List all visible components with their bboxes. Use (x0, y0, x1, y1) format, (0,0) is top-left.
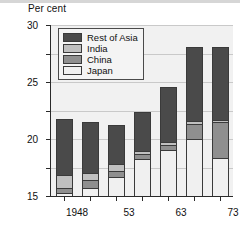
bar-segment-china (56, 188, 73, 193)
y-axis-tick-label: 30 (27, 20, 38, 31)
bar-segment-japan (134, 159, 151, 196)
bar-segment-japan (186, 139, 203, 196)
legend-item: Rest of Asia (63, 32, 138, 43)
legend-swatch-icon (63, 66, 82, 75)
y-axis-tick: 30 (46, 25, 51, 26)
x-axis-tick: 83 (168, 196, 169, 201)
bar-segment-china (160, 145, 177, 151)
legend: Rest of AsiaIndiaChinaJapan (58, 28, 144, 80)
x-axis-tick-label: 63 (175, 207, 186, 218)
y-axis-tick: 15 (46, 111, 51, 112)
x-axis-tick: 1948 (64, 196, 65, 201)
x-axis-tick: 53 (90, 196, 91, 201)
bar-segment-india (160, 142, 177, 145)
legend-swatch-icon (63, 55, 82, 64)
bar-segment-china (186, 124, 203, 139)
x-axis-tick-label: 1948 (66, 207, 88, 218)
y-axis-tick: 0 (46, 196, 51, 197)
bar-segment-india (56, 175, 73, 188)
legend-item-label: Rest of Asia (87, 32, 138, 43)
legend-swatch-icon (63, 33, 82, 42)
bar-segment-rest-of-asia (212, 47, 229, 120)
bar-segment-rest-of-asia (134, 112, 151, 151)
bar-segment-india (108, 164, 125, 171)
bar-segment-india (134, 151, 151, 154)
legend-item: Japan (63, 65, 138, 76)
bar-segment-rest-of-asia (186, 47, 203, 121)
bar-segment-india (82, 173, 99, 180)
bar-segment-china (108, 171, 125, 177)
y-axis-tick: 20 (46, 82, 51, 83)
legend-item-label: India (87, 43, 108, 54)
bar-segment-china (134, 154, 151, 159)
y-axis-tick-label: 20 (27, 134, 38, 145)
bar-segment-rest-of-asia (108, 125, 125, 164)
bar-segment-japan (56, 193, 73, 196)
bar-segment-japan (108, 177, 125, 196)
bar-segment-india (186, 121, 203, 124)
bar-83 (160, 25, 177, 196)
y-axis-tick: 25 (46, 54, 51, 55)
x-axis-tick: 63 (116, 196, 117, 201)
bar-segment-japan (82, 188, 99, 196)
y-axis-tick-label: 15 (27, 191, 38, 202)
bar-segment-china (212, 122, 229, 158)
x-axis-tick: 93 (194, 196, 195, 201)
bar-segment-japan (160, 150, 177, 196)
y-axis-tick: 5 (46, 168, 51, 169)
legend-item-label: China (87, 54, 112, 65)
bar-2003 (212, 25, 229, 196)
x-axis-tick-label: 53 (123, 207, 134, 218)
x-axis-tick: 2003 (220, 196, 221, 201)
legend-item: India (63, 43, 138, 54)
bar-segment-rest-of-asia (56, 119, 73, 175)
figure: Per cent 051015202530194853637383932003 … (0, 0, 240, 229)
y-axis-tick-label: 25 (27, 77, 38, 88)
bar-93 (186, 25, 203, 196)
y-axis-title: Per cent (28, 3, 66, 14)
bar-segment-rest-of-asia (160, 87, 177, 142)
legend-swatch-icon (63, 44, 82, 53)
x-axis-tick: 73 (142, 196, 143, 201)
bar-segment-rest-of-asia (82, 122, 99, 173)
legend-item: China (63, 54, 138, 65)
bar-segment-india (212, 120, 229, 122)
bar-segment-china (82, 180, 99, 188)
legend-item-label: Japan (87, 65, 113, 76)
y-axis-tick: 10 (46, 139, 51, 140)
bar-segment-japan (212, 158, 229, 196)
x-axis-tick-label: 73 (227, 207, 238, 218)
